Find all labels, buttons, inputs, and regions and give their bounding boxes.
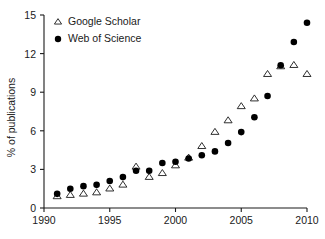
x-tick-label: 1995 xyxy=(98,214,122,226)
data-point-google-scholar xyxy=(198,143,206,149)
data-point-google-scholar xyxy=(119,181,127,187)
x-tick-label: 1990 xyxy=(32,214,56,226)
data-point-web-of-science xyxy=(80,183,87,190)
y-tick-label: 15 xyxy=(24,9,36,21)
data-point-google-scholar xyxy=(93,189,101,195)
data-point-web-of-science xyxy=(212,148,219,155)
data-point-web-of-science xyxy=(133,167,140,174)
data-point-web-of-science xyxy=(238,129,245,136)
chart-canvas: 1990199520002005201003691215% of publica… xyxy=(0,0,325,239)
y-tick-label: 6 xyxy=(30,125,36,137)
data-point-web-of-science xyxy=(67,185,74,192)
legend-marker-circle-icon xyxy=(55,36,61,42)
publications-scatter-chart: 1990199520002005201003691215% of publica… xyxy=(0,0,325,239)
data-point-google-scholar xyxy=(158,170,166,176)
data-point-web-of-science xyxy=(199,152,206,159)
data-point-google-scholar xyxy=(303,70,311,76)
data-point-google-scholar xyxy=(145,173,153,179)
data-point-web-of-science xyxy=(185,155,192,162)
data-point-web-of-science xyxy=(291,39,298,46)
y-tick-label: 3 xyxy=(30,163,36,175)
data-point-web-of-science xyxy=(106,178,113,185)
data-point-web-of-science xyxy=(93,182,100,189)
y-tick-label: 12 xyxy=(24,48,36,60)
data-point-web-of-science xyxy=(251,114,258,121)
data-point-google-scholar xyxy=(290,61,298,67)
data-point-web-of-science xyxy=(172,158,179,165)
y-tick-label: 9 xyxy=(30,86,36,98)
x-tick-label: 2010 xyxy=(295,214,319,226)
data-point-google-scholar xyxy=(106,185,114,191)
data-point-web-of-science xyxy=(159,160,166,167)
y-axis-title: % of publications xyxy=(5,78,17,157)
legend-label-1: Web of Science xyxy=(68,32,142,44)
data-point-google-scholar xyxy=(79,190,87,196)
data-point-web-of-science xyxy=(54,191,61,198)
data-point-web-of-science xyxy=(225,140,232,147)
data-point-google-scholar xyxy=(250,95,258,101)
data-point-web-of-science xyxy=(120,174,127,181)
data-point-web-of-science xyxy=(277,62,284,69)
data-point-google-scholar xyxy=(264,70,272,76)
data-point-google-scholar xyxy=(224,117,232,123)
x-tick-label: 2000 xyxy=(164,214,188,226)
y-tick-label: 0 xyxy=(30,202,36,214)
data-point-web-of-science xyxy=(264,93,271,100)
legend-marker-triangle-icon xyxy=(54,19,61,24)
data-point-google-scholar xyxy=(237,103,245,109)
data-point-web-of-science xyxy=(304,19,311,26)
data-point-google-scholar xyxy=(66,191,74,197)
data-point-google-scholar xyxy=(211,128,219,134)
x-tick-label: 2005 xyxy=(230,214,254,226)
legend-label-0: Google Scholar xyxy=(68,15,141,27)
data-point-web-of-science xyxy=(146,167,153,174)
